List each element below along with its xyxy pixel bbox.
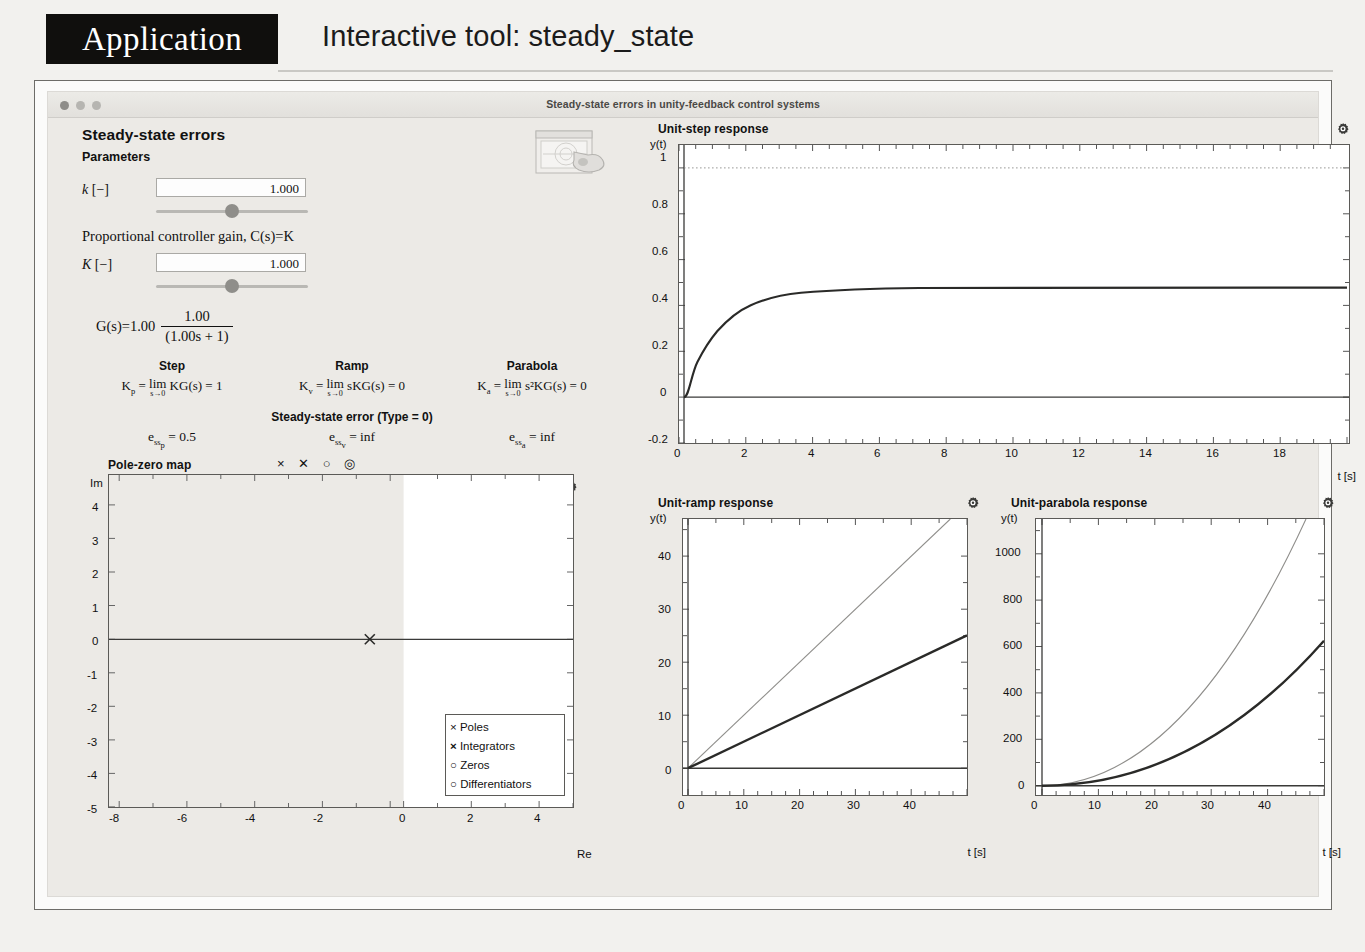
plot-area-step[interactable]: [678, 144, 1350, 444]
ytick: 0: [660, 386, 666, 398]
slider-knob[interactable]: [225, 204, 239, 218]
parameters-heading: Parameters: [82, 150, 612, 164]
ytick: 1: [660, 151, 666, 163]
error-constant-parabola: Parabola Ka = lims→0 s²KG(s) = 0: [442, 359, 622, 398]
window-titlebar[interactable]: Steady-state errors in unity-feedback co…: [48, 92, 1318, 118]
transfer-function: G(s)=1.00 1.00 (1.00s + 1): [96, 308, 622, 345]
chart-pole-zero-map: Pole-zero map × ✕ ○ ◎ Im Re 4 3 2 1 0 -1…: [82, 458, 612, 858]
application-chip: Application: [46, 14, 278, 64]
ytick: -5: [87, 803, 97, 815]
chart-unit-step-response: Unit-step response y(t) t [s] 1 0.8 0.6 …: [648, 122, 1358, 482]
xtick: 30: [1201, 799, 1214, 811]
gs-numerator: 1.00: [178, 308, 215, 326]
parameter-row-k: k [−] 1.000: [82, 178, 612, 204]
xtick: 0: [1031, 799, 1037, 811]
plot-area-ramp[interactable]: [682, 518, 968, 796]
y-axis-label-step: y(t): [650, 138, 667, 150]
ytick: 600: [1003, 639, 1022, 651]
gs-denominator: (1.00s + 1): [161, 326, 232, 345]
ytick: 2: [92, 568, 98, 580]
error-ramp: essv = inf: [262, 429, 442, 449]
page-header: Application Interactive tool: steady_sta…: [0, 0, 1365, 78]
x-axis-label-parabola: t [s]: [1322, 846, 1341, 858]
pole-marker-icon: ×: [450, 721, 457, 733]
formula-kv: Kv = lims→0 sKG(s) = 0: [262, 377, 442, 398]
xtick: 14: [1139, 447, 1152, 459]
app-window: Steady-state errors in unity-feedback co…: [47, 91, 1319, 897]
xtick: 12: [1072, 447, 1085, 459]
xtick: 16: [1206, 447, 1219, 459]
ytick: 0: [665, 764, 671, 776]
y-axis-label-ramp: y(t): [650, 512, 667, 524]
gear-icon[interactable]: [1336, 122, 1350, 136]
x-axis-label-ramp: t [s]: [967, 846, 986, 858]
ytick: 1000: [995, 546, 1021, 558]
x-axis-label-step: t [s]: [1337, 470, 1356, 482]
xtick: 30: [847, 799, 860, 811]
ytick: 0.2: [652, 339, 668, 351]
ytick: 0.4: [652, 292, 668, 304]
xtick: 40: [1258, 799, 1271, 811]
parameter-slider-K[interactable]: [156, 279, 308, 293]
formula-kp: Kp = lims→0 KG(s) = 1: [82, 377, 262, 398]
chart-unit-ramp-response: Unit-ramp response y(t) t [s] 40 30 20 1…: [648, 496, 988, 858]
pole-zero-legend: × Poles × Integrators ○ Zeros ○ Differen…: [445, 714, 565, 796]
xtick: 8: [941, 447, 947, 459]
xtick: 2: [467, 812, 473, 824]
slider-knob[interactable]: [225, 279, 239, 293]
legend-item-poles: × Poles: [450, 718, 564, 737]
ytick: 0: [92, 635, 98, 647]
xtick: 40: [903, 799, 916, 811]
xtick: 10: [1088, 799, 1101, 811]
application-frame: Steady-state errors in unity-feedback co…: [34, 80, 1332, 910]
window-content: Steady-state errors Parameters k [−] 1.0…: [48, 118, 1318, 898]
xtick: 0: [674, 447, 680, 459]
xtick: -4: [245, 812, 255, 824]
ytick: 4: [92, 501, 98, 513]
ytick: 20: [658, 657, 671, 669]
ytick: 0.6: [652, 245, 668, 257]
ytick: 10: [658, 710, 671, 722]
ytick: -0.2: [648, 433, 668, 445]
error-constant-ramp: Ramp Kv = lims→0 sKG(s) = 0: [262, 359, 442, 398]
y-axis-label-parabola: y(t): [1001, 512, 1018, 524]
xtick: -8: [109, 812, 119, 824]
plot-area-parabola[interactable]: [1035, 518, 1325, 796]
y-axis-label-im: Im: [90, 477, 103, 489]
formula-ka: Ka = lims→0 s²KG(s) = 0: [442, 377, 622, 398]
xtick: 0: [678, 799, 684, 811]
xtick: 20: [791, 799, 804, 811]
ytick: -1: [87, 669, 97, 681]
ytick: 1: [92, 602, 98, 614]
differentiator-marker-icon: ○: [450, 778, 457, 790]
error-parabola: essa = inf: [442, 429, 622, 449]
parameter-label-K: K [−]: [82, 257, 112, 273]
xtick: 4: [534, 812, 540, 824]
steady-state-error-row: essp = 0.5 essv = inf essa = inf: [82, 429, 622, 449]
integrator-marker-icon: ×: [450, 740, 457, 752]
parameter-row-K: K [−] 1.000: [82, 253, 612, 279]
gear-icon[interactable]: [966, 496, 980, 510]
parameter-slider-k[interactable]: [156, 204, 308, 218]
column-title-ramp: Ramp: [262, 359, 442, 373]
xtick: -6: [177, 812, 187, 824]
controller-gain-text: Proportional controller gain, C(s)=K: [82, 228, 612, 245]
panel-title: Steady-state errors: [82, 126, 612, 144]
formulas-block: G(s)=1.00 1.00 (1.00s + 1) Step Kp = lim…: [82, 308, 622, 449]
xtick: 2: [741, 447, 747, 459]
xtick: 0: [399, 812, 405, 824]
ytick: 0: [1018, 779, 1024, 791]
parameter-input-K[interactable]: 1.000: [156, 253, 306, 272]
xtick: 10: [735, 799, 748, 811]
gear-icon[interactable]: [1321, 496, 1335, 510]
ytick: 30: [658, 603, 671, 615]
interactive-window-hand-icon: [534, 128, 616, 176]
legend-item-zeros: ○ Zeros: [450, 756, 564, 775]
parameter-input-k[interactable]: 1.000: [156, 178, 306, 197]
ytick: 400: [1003, 686, 1022, 698]
error-step: essp = 0.5: [82, 429, 262, 449]
error-constants-row: Step Kp = lims→0 KG(s) = 1 Ramp Kv = lim…: [82, 359, 622, 398]
ytick: 3: [92, 535, 98, 547]
ytick: 800: [1003, 593, 1022, 605]
window-title: Steady-state errors in unity-feedback co…: [48, 98, 1318, 110]
